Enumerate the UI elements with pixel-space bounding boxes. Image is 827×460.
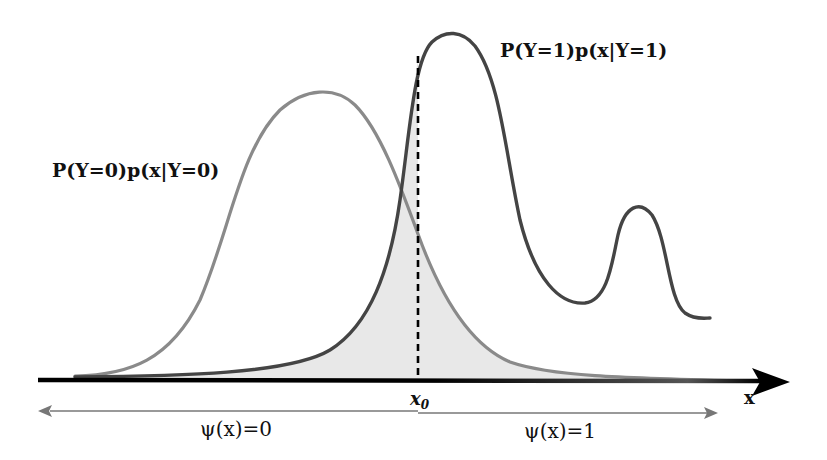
region-label-right: ψ(x)=1 bbox=[524, 419, 596, 443]
x-axis bbox=[38, 380, 760, 381]
threshold-label: x0 bbox=[409, 388, 430, 412]
threshold-label-subscript: 0 bbox=[421, 398, 430, 412]
axis-label: x bbox=[744, 387, 755, 408]
error-shaded-region bbox=[75, 58, 418, 378]
class1-density-label: P(Y=1)p(x|Y=1) bbox=[500, 39, 667, 62]
region-label-left: ψ(x)=0 bbox=[200, 417, 272, 441]
arrow-left-icon bbox=[38, 405, 52, 417]
threshold-label-main: x bbox=[409, 388, 421, 409]
class0-density-label: P(Y=0)p(x|Y=0) bbox=[52, 159, 219, 182]
bayes-classifier-diagram: P(Y=1)p(x|Y=1) P(Y=0)p(x|Y=0) x0 x ψ(x)=… bbox=[0, 0, 827, 460]
